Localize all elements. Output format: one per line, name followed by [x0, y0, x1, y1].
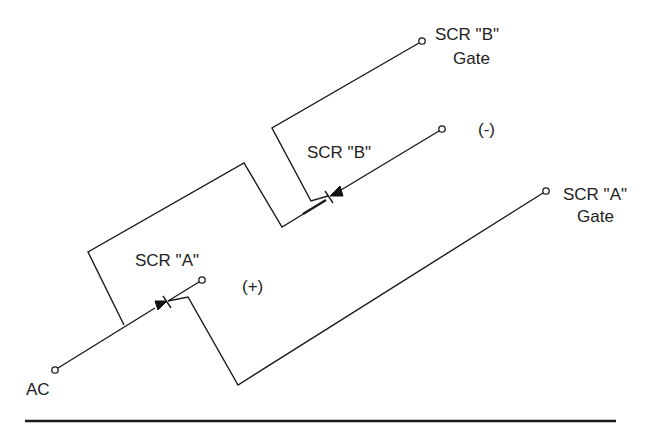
- minus-terminal: [439, 126, 445, 132]
- scr-circuit-diagram: AC SCR "A" (+) SCR "B" (-) SCR "B" Gate …: [0, 0, 650, 424]
- scr-a-gate-label-line2: Gate: [577, 207, 614, 226]
- scr-b-gate-wire: [272, 43, 419, 201]
- ac-to-scr-a-wire: [58, 308, 155, 368]
- scr-a-gate-wire: [168, 193, 543, 385]
- plus-label: (+): [242, 277, 263, 296]
- scr-b-gate-label-line2: Gate: [453, 49, 490, 68]
- bridge-wire: [88, 163, 305, 325]
- scr-a-label: SCR "A": [135, 251, 199, 270]
- plus-terminal: [199, 277, 205, 283]
- scr-b-symbol: [325, 186, 343, 203]
- ac-label: AC: [26, 380, 50, 399]
- scr-b-gate-terminal: [419, 38, 425, 44]
- scr-a-gate-label-line1: SCR "A": [563, 185, 627, 204]
- scr-a-gate-terminal: [543, 188, 549, 194]
- ac-terminal: [52, 367, 58, 373]
- scr-b-gate-label-line1: SCR "B": [435, 25, 499, 44]
- scr-b-cathode-lead: [303, 200, 326, 214]
- scr-a-symbol: [155, 296, 171, 310]
- minus-label: (-): [478, 120, 495, 139]
- scr-a-diode-arrow-icon: [155, 301, 167, 310]
- scr-b-label: SCR "B": [307, 143, 371, 162]
- scr-b-diode-arrow-icon: [330, 186, 343, 196]
